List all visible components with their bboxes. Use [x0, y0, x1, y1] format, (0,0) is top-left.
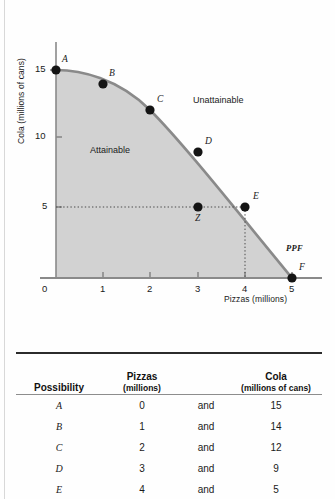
point-label-F: F [299, 262, 305, 272]
region-label-attainable: Attainable [90, 145, 130, 155]
x-tick-label-1: 1 [100, 283, 105, 294]
table-row[interactable]: E 4 and 5 [16, 479, 322, 499]
cell-cola: 9 [230, 458, 322, 479]
y-tick-label-15: 15 [35, 63, 46, 74]
point-label-E: E [253, 191, 259, 201]
data-point-Z[interactable] [193, 202, 202, 211]
figure-page: Cola (millions of cans) Pizzas (millions… [0, 0, 335, 499]
x-tick-label-0: 0 [42, 283, 47, 294]
cell-pizzas: 3 [102, 458, 182, 479]
th-cola-sub: (millions of cans) [230, 383, 322, 394]
x-tick-label-3: 3 [195, 283, 200, 294]
ppf-figure: Cola (millions of cans) Pizzas (millions… [0, 0, 335, 335]
region-label-unattainable: Unattainable [193, 95, 244, 105]
ppf-curve-label: PPF [286, 243, 303, 253]
table-row[interactable]: A 0 and 15 [16, 395, 322, 416]
x-tick-label-4: 4 [242, 283, 247, 294]
ppf-schedule-table: Possibility Pizzas (millions) Cola (mill… [16, 354, 322, 394]
cell-and: and [182, 437, 230, 458]
th-pizzas: Pizzas (millions) [102, 354, 182, 394]
cell-pizzas: 0 [102, 395, 182, 416]
th-cola: Cola (millions of cans) [230, 354, 322, 394]
x-axis-title: Pizzas (millions) [224, 294, 287, 304]
data-point-A[interactable] [51, 65, 60, 74]
point-label-B: B [109, 68, 115, 78]
cell-cola: 5 [230, 479, 322, 499]
cell-and: and [182, 458, 230, 479]
point-label-D: D [205, 136, 212, 146]
th-possibility: Possibility [16, 354, 102, 394]
data-point-E[interactable] [240, 202, 249, 211]
cell-and: and [182, 416, 230, 437]
cell-and: and [182, 395, 230, 416]
y-axis-title: Cola (millions of cans) [16, 46, 26, 156]
cell-cola: 12 [230, 437, 322, 458]
point-label-Z: Z [195, 213, 200, 223]
data-point-F[interactable] [287, 273, 296, 282]
cell-pizzas: 2 [102, 437, 182, 458]
ppf-chart [0, 0, 335, 335]
th-pizzas-sub: (millions) [102, 383, 182, 394]
cell-cola: 14 [230, 416, 322, 437]
y-tick-label-10: 10 [35, 130, 46, 141]
cell-cola: 15 [230, 395, 322, 416]
th-pizzas-main: Pizzas [102, 371, 182, 384]
th-cola-main: Cola [230, 371, 322, 384]
cell-and: and [182, 479, 230, 499]
cell-pizzas: 4 [102, 479, 182, 499]
cell-possibility: E [16, 479, 102, 499]
x-tick-label-5: 5 [289, 283, 294, 294]
cell-pizzas: 1 [102, 416, 182, 437]
cell-possibility: A [16, 395, 102, 416]
y-tick-label-5: 5 [42, 200, 47, 211]
data-point-C[interactable] [145, 105, 154, 114]
attainable-shaded-region [56, 70, 292, 278]
point-label-C: C [157, 94, 163, 104]
cell-possibility: C [16, 437, 102, 458]
data-point-D[interactable] [193, 147, 202, 156]
th-spacer [182, 354, 230, 394]
th-possibility-label: Possibility [16, 382, 102, 395]
table-row[interactable]: D 3 and 9 [16, 458, 322, 479]
point-label-A: A [62, 54, 68, 64]
table-row[interactable]: B 1 and 14 [16, 416, 322, 437]
table-row[interactable]: C 2 and 12 [16, 437, 322, 458]
x-tick-label-2: 2 [147, 283, 152, 294]
cell-possibility: B [16, 416, 102, 437]
cell-possibility: D [16, 458, 102, 479]
ppf-schedule-table-body: A 0 and 15 B 1 and 14 C 2 and 12 [16, 395, 322, 499]
data-point-B[interactable] [98, 79, 107, 88]
ppf-schedule-table-block: Possibility Pizzas (millions) Cola (mill… [16, 352, 322, 499]
